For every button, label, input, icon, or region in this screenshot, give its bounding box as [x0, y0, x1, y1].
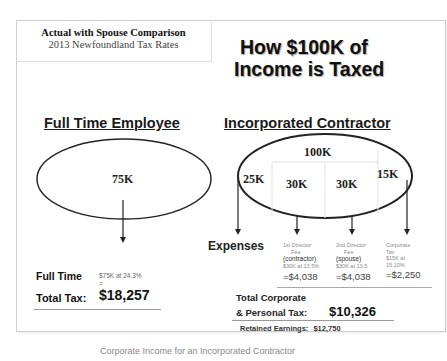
expense-role: (contractor): [283, 255, 333, 263]
retained-earnings: Retained Earnings: $12,750: [240, 324, 341, 333]
segment-corporate-label: 15K: [377, 167, 398, 182]
expense-amount: =$4,038: [283, 271, 333, 282]
contractor-divider: [232, 320, 394, 321]
expense-role: (spouse): [336, 255, 380, 263]
employee-income-label: 75K: [112, 172, 133, 187]
contractor-total-income-label: 100K: [304, 145, 331, 160]
employee-total-tax-label: Total Tax:: [36, 292, 86, 304]
expenses-divider: [277, 287, 432, 288]
employee-tax-detail: $75K at 24.3% =: [99, 272, 142, 288]
expense-detail: $30K at 13.5: [336, 263, 380, 270]
contractor-total-label-line-1: Total Corporate: [236, 292, 306, 303]
employee-divider: [34, 309, 161, 310]
retained-earnings-value: $12,750: [313, 324, 340, 333]
segment-director-2-label: 30K: [336, 177, 357, 192]
employee-rate-text: $75K at 24.3%: [99, 272, 142, 280]
contractor-total-tax-value: $10,326: [329, 304, 376, 319]
expense-column-director-2: 2nd Director Fee (spouse) $30K at 13.5 =…: [336, 242, 380, 282]
employee-full-time-label: Full Time: [36, 270, 82, 282]
segment-expenses-label: 25K: [243, 172, 264, 187]
expense-column-corporate-tax: Corporate Tax $15K at 15.10% =$2,250: [386, 242, 428, 280]
expense-detail: $30K at 13.5%: [283, 263, 333, 270]
expense-column-director-1: 1st Director Fee (contractor) $30K at 13…: [283, 242, 333, 282]
segment-director-1-label: 30K: [286, 177, 307, 192]
figure-caption: Corporate Income for an Incorporated Con…: [100, 346, 295, 356]
retained-earnings-label: Retained Earnings:: [240, 324, 308, 333]
employee-total-tax-value: $18,257: [99, 287, 150, 303]
expense-detail: 15.10%: [386, 262, 428, 269]
contractor-total-label-line-2: & Personal Tax:: [236, 307, 307, 318]
expenses-label: Expenses: [208, 239, 264, 253]
expense-amount: =$2,250: [386, 269, 428, 280]
expense-amount: =$4,038: [336, 271, 380, 282]
